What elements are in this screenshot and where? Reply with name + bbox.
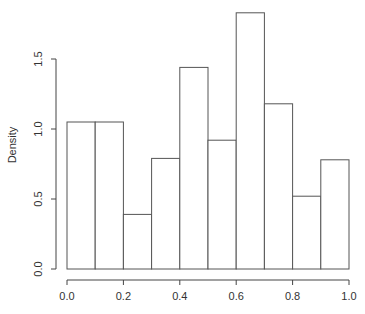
histogram-chart: 0.00.20.40.60.81.0 0.00.51.01.5 Density: [0, 0, 365, 314]
y-axis: 0.00.51.01.5: [32, 51, 56, 276]
histogram-bar: [95, 122, 123, 269]
y-axis-label: Density: [6, 126, 18, 163]
x-tick-label: 0.8: [285, 290, 300, 302]
x-tick-label: 0.0: [59, 290, 74, 302]
y-tick-label: 0.5: [32, 191, 44, 206]
x-tick-label: 0.6: [229, 290, 244, 302]
histogram-bar: [67, 122, 95, 269]
histogram-bar: [321, 160, 349, 269]
histogram-bar: [123, 214, 151, 269]
histogram-bar: [208, 140, 236, 269]
histogram-bar: [293, 196, 321, 269]
histogram-bar: [264, 104, 292, 269]
x-tick-label: 0.2: [116, 290, 131, 302]
y-tick-label: 0.0: [32, 261, 44, 276]
histogram-bar: [236, 13, 264, 269]
y-tick-label: 1.5: [32, 51, 44, 66]
histogram-bars: [67, 13, 349, 269]
y-tick-label: 1.0: [32, 121, 44, 136]
histogram-bar: [152, 158, 180, 269]
x-tick-label: 0.4: [172, 290, 187, 302]
x-axis: 0.00.20.40.60.81.0: [59, 280, 356, 302]
x-tick-label: 1.0: [341, 290, 356, 302]
histogram-bar: [180, 67, 208, 269]
